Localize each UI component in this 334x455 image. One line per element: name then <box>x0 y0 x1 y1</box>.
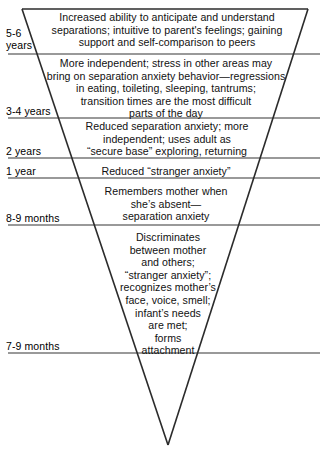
band-text-3-4-years: More independent; stress in other areas … <box>38 57 294 120</box>
band-text-5-6-years: Increased ability to anticipate and unde… <box>42 11 292 49</box>
band-text-8-9-months: Remembers mother when she’s absent— sepa… <box>70 185 262 223</box>
band-text-7-9-months: Discriminates between mother and others;… <box>88 231 248 357</box>
band-text-1-year: Reduced “stranger anxiety” <box>62 165 270 178</box>
age-label-5-6-years: 5-6 years <box>6 28 32 51</box>
band-text-2-years: Reduced separation anxiety; more indepen… <box>56 120 278 158</box>
age-label-7-9-months: 7-9 months <box>6 341 60 353</box>
age-label-1-year: 1 year <box>6 166 36 178</box>
age-label-2-years: 2 years <box>6 146 41 158</box>
age-label-8-9-months: 8-9 months <box>6 213 60 225</box>
separation-anxiety-triangle-figure: 5-6 years 3-4 years 2 years 1 year 8-9 m… <box>0 0 334 455</box>
